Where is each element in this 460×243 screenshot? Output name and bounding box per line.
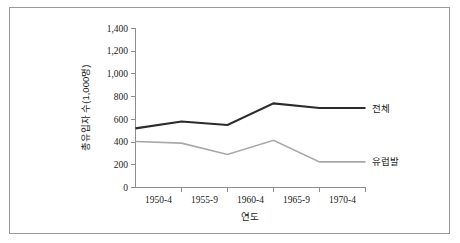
- x-tick-label-1955-9: 1955-9: [191, 195, 218, 205]
- y-tick-label-1400: 1,400: [107, 24, 129, 34]
- y-tick-label-1000: 1,000: [107, 69, 129, 79]
- series-line-total: [136, 103, 366, 128]
- line-chart: 1,400 1,200 1,000 800 600 400 200 0 1950…: [0, 0, 460, 243]
- chart-figure: 1,400 1,200 1,000 800 600 400 200 0 1950…: [0, 0, 460, 243]
- x-tick-label-1950-4: 1950-4: [145, 195, 172, 205]
- series-label-total: 전체: [372, 103, 390, 114]
- y-tick-label-200: 200: [114, 160, 129, 170]
- x-axis-title: 연도: [241, 211, 259, 222]
- y-tick-label-600: 600: [114, 115, 129, 125]
- y-tick-label-400: 400: [114, 137, 129, 147]
- y-tick-label-1200: 1,200: [107, 46, 129, 56]
- y-tick-label-0: 0: [123, 183, 128, 193]
- x-tick-marks: [182, 188, 366, 193]
- y-tick-label-800: 800: [114, 92, 129, 102]
- x-tick-label-1960-4: 1960-4: [237, 195, 264, 205]
- series-label-europe: 유럽발: [372, 156, 399, 167]
- x-tick-label-1970-4: 1970-4: [329, 195, 356, 205]
- y-tick-marks: [131, 29, 136, 188]
- x-tick-label-1965-9: 1965-9: [283, 195, 310, 205]
- series-line-europe: [136, 140, 366, 162]
- y-axis-title: 총유입자 수(1,000명): [80, 65, 91, 152]
